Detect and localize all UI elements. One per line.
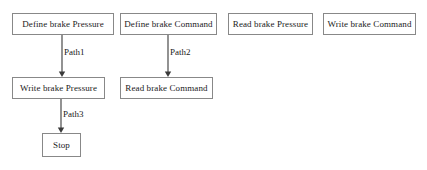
node-define-brake-command[interactable]: Define brake Command (120, 13, 217, 35)
node-label: Stop (53, 141, 70, 150)
node-label: Read brake Pressure (233, 20, 308, 29)
node-define-brake-pressure[interactable]: Define brake Pressure (12, 13, 114, 35)
node-label: Define brake Pressure (22, 20, 104, 29)
edge-label-path1: Path1 (64, 48, 85, 57)
node-read-brake-pressure[interactable]: Read brake Pressure (228, 13, 313, 35)
diagram-canvas: Define brake PressureDefine brake Comman… (0, 0, 427, 170)
node-label: Write brake Command (327, 20, 411, 29)
node-label: Read brake Command (125, 84, 207, 93)
node-write-brake-command[interactable]: Write brake Command (323, 13, 416, 35)
node-label: Define brake Command (124, 20, 212, 29)
node-label: Write brake Pressure (20, 84, 97, 93)
edge-label-path3: Path3 (63, 110, 84, 119)
edge-label-path2: Path2 (170, 48, 191, 57)
node-stop[interactable]: Stop (42, 133, 81, 157)
node-read-brake-command[interactable]: Read brake Command (120, 77, 213, 99)
node-write-brake-pressure[interactable]: Write brake Pressure (12, 77, 105, 99)
